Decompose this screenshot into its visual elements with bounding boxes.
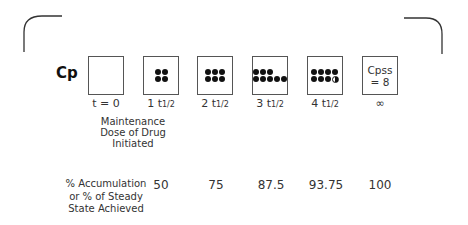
cpss-label: Cpss [368, 64, 393, 76]
note-line: Initiated [88, 138, 178, 149]
concentration-box-2-half-lives [197, 56, 233, 95]
cpss-value: = 8 [368, 76, 393, 88]
drug-dot [212, 69, 218, 75]
label-line: or % of Steady [58, 191, 154, 204]
dot-group [205, 69, 225, 82]
half-fraction: 1/2 [326, 100, 339, 109]
steady-state-text: Cpss = 8 [368, 64, 393, 88]
drug-dot [318, 69, 324, 75]
drug-dot [325, 76, 331, 82]
time-label-2-half-lives: 2 t1/2 [185, 97, 245, 110]
note-line: Maintenance [88, 116, 178, 127]
concentration-box-t0 [88, 56, 124, 95]
drug-dot [260, 69, 266, 75]
drug-dot [205, 69, 211, 75]
drug-dot [274, 76, 280, 82]
drug-dot [219, 69, 225, 75]
time-prefix: 1 t [147, 97, 162, 110]
maintenance-dose-note: Maintenance Dose of Drug Initiated [88, 116, 178, 149]
percent-2-half-lives: 75 [186, 178, 246, 192]
drug-dot [318, 76, 324, 82]
drug-dot [162, 76, 168, 82]
drug-dot [253, 76, 259, 82]
dot-group [253, 69, 287, 82]
half-drug-dot [332, 76, 339, 83]
time-label-3-half-lives: 3 t1/2 [240, 97, 300, 110]
cp-label: Cp [56, 64, 78, 82]
concentration-box-1-half-life [143, 56, 179, 95]
drug-dot [155, 76, 161, 82]
half-fraction: 1/2 [162, 100, 175, 109]
time-prefix: 3 t [256, 97, 271, 110]
percent-3-half-lives: 87.5 [241, 178, 301, 192]
drug-dot [219, 76, 225, 82]
drug-dot [311, 69, 317, 75]
drug-dot [253, 69, 259, 75]
time-label-t0: t = 0 [76, 97, 136, 110]
time-label-infinity: ∞ [350, 97, 410, 110]
drug-dot [155, 69, 161, 75]
drug-dot [325, 69, 331, 75]
left-bracket [24, 16, 62, 52]
time-label-1-half-life: 1 t1/2 [131, 97, 191, 110]
percent-infinity: 100 [350, 178, 410, 192]
drug-dot [267, 76, 273, 82]
percent-4-half-lives: 93.75 [296, 178, 356, 192]
drug-dot [281, 76, 287, 82]
dot-group [155, 69, 168, 82]
concentration-box-4-half-lives [307, 56, 343, 95]
drug-dot [311, 76, 317, 82]
right-bracket [404, 18, 442, 54]
drug-dot [260, 76, 266, 82]
drug-dot [267, 69, 273, 75]
steady-state-box: Cpss = 8 [362, 56, 398, 95]
drug-dot [162, 69, 168, 75]
half-fraction: 1/2 [216, 100, 229, 109]
concentration-box-3-half-lives [252, 56, 288, 95]
time-prefix: 4 t [311, 97, 326, 110]
note-line: Dose of Drug [88, 127, 178, 138]
time-label-4-half-lives: 4 t1/2 [295, 97, 355, 110]
dot-group [311, 69, 339, 83]
percent-1-half-life: 50 [131, 178, 191, 192]
drug-dot [332, 69, 338, 75]
time-prefix: 2 t [201, 97, 216, 110]
drug-dot [205, 76, 211, 82]
label-line: State Achieved [58, 203, 154, 216]
drug-dot [212, 76, 218, 82]
half-fraction: 1/2 [271, 100, 284, 109]
